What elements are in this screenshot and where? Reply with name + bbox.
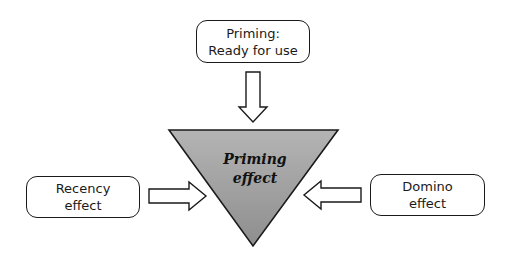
node-label-line-1: Recency [56, 180, 111, 197]
down-arrow-icon [239, 72, 267, 122]
priming-effect-label: Priming effect [205, 150, 305, 188]
recency-effect-node: Recency effect [26, 176, 140, 218]
node-label-line-2: effect [56, 197, 111, 214]
node-label-line-2: Ready for use [208, 42, 298, 59]
node-label-line-1: Domino [402, 178, 452, 195]
left-arrow-icon [304, 181, 361, 209]
right-arrow-icon [149, 182, 206, 210]
node-label-line-1: Priming: [208, 25, 298, 42]
triangle-label-line-2: effect [205, 169, 305, 188]
priming-ready-for-use-node: Priming: Ready for use [196, 20, 310, 63]
node-label-line-2: effect [402, 195, 452, 212]
triangle-label-line-1: Priming [205, 150, 305, 169]
domino-effect-node: Domino effect [370, 174, 485, 216]
